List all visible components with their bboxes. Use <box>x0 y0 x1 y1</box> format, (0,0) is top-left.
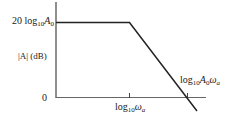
y-axis-label: |A| (dB) <box>18 51 47 62</box>
bode-magnitude-chart: 20 log10A0 |A| (dB) 0 log10ωa log10A0ωa <box>0 0 234 121</box>
y-tick-label-top: 20 log10A0 <box>12 15 54 30</box>
x-tick-label-wa: log10ωa <box>115 101 145 116</box>
y-tick-label-zero: 0 <box>42 92 47 103</box>
x-tick-label-a0wa: log10A0ωa <box>180 74 220 89</box>
